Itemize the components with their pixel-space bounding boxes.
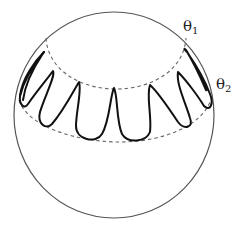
latitude-theta2-dashed xyxy=(19,96,212,142)
latitude-theta1-dashed xyxy=(46,38,186,89)
oscillating-curve xyxy=(20,49,212,141)
label-theta2: θ2 xyxy=(216,75,231,94)
oscillating-curve-left-edge xyxy=(20,52,44,100)
label-theta1: θ1 xyxy=(183,17,198,36)
sphere-diagram: θ1 θ2 xyxy=(0,0,242,228)
sphere-outline xyxy=(14,12,214,218)
